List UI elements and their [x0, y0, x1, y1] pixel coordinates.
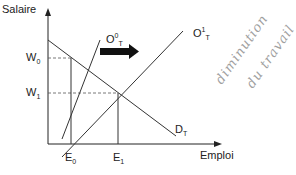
e0-label: E0 — [65, 152, 76, 165]
labor-market-diagram: Salaire Emploi W0 W1 E0 E1 O0T O1T DT di… — [0, 0, 296, 175]
w0-label: W0 — [26, 52, 40, 65]
y-axis-label: Salaire — [2, 4, 36, 15]
supply-shifted-label: O1T — [193, 26, 210, 41]
e1-label: E1 — [113, 152, 124, 165]
w1-label: W1 — [26, 87, 40, 100]
x-axis-label: Emploi — [200, 150, 234, 161]
demand-label: DT — [175, 124, 187, 137]
supply-initial-label: O0T — [106, 32, 123, 47]
